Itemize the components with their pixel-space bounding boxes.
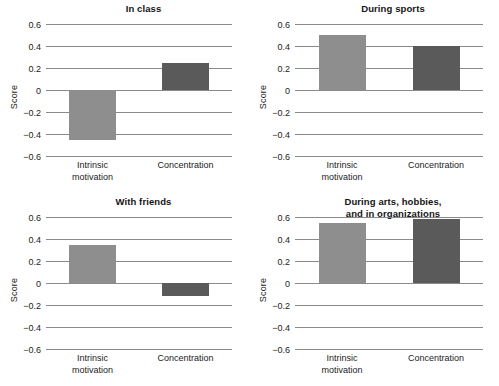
gridline: −0.6: [46, 349, 232, 350]
y-tick-label: 0.2: [28, 257, 41, 267]
bar-concentration: [162, 283, 209, 296]
bars-group: [46, 24, 232, 156]
panel-title: In class: [46, 3, 241, 15]
bar-concentration: [162, 63, 209, 91]
y-tick-label: 0.4: [277, 42, 290, 52]
x-tick-label: Intrinsic motivation: [295, 160, 389, 190]
gridline: −0.6: [295, 156, 483, 157]
bars-group: [46, 217, 232, 349]
plot-area: 0.60.40.20−0.2−0.4−0.6: [46, 217, 232, 349]
y-tick-label: 0.4: [28, 235, 41, 245]
plot-area: 0.60.40.20−0.2−0.4−0.6: [295, 24, 483, 156]
plot-area: 0.60.40.20−0.2−0.4−0.6: [295, 217, 483, 349]
y-tick-label: 0.2: [277, 64, 290, 74]
y-tick-label: 0.2: [277, 257, 290, 267]
y-tick-label: 0.2: [28, 64, 41, 74]
x-tick-label: Concentration: [389, 160, 483, 190]
y-tick-label: −0.2: [23, 108, 41, 118]
y-axis-label: Score: [9, 84, 19, 109]
y-tick-label: 0.6: [28, 20, 41, 30]
gridline: −0.6: [295, 349, 483, 350]
x-axis-labels: Intrinsic motivationConcentration: [46, 353, 232, 383]
panel-title: With friends: [46, 196, 241, 208]
multi-panel-bar-chart: In classScore0.60.40.20−0.2−0.4−0.6Intri…: [0, 0, 499, 386]
x-tick-label: Intrinsic motivation: [46, 353, 139, 383]
x-tick-label: Concentration: [139, 160, 232, 190]
y-tick-label: 0.4: [28, 42, 41, 52]
bar-intrinsic-motivation: [69, 245, 116, 284]
y-tick-label: 0.6: [28, 213, 41, 223]
y-tick-label: −0.6: [272, 152, 290, 162]
bars-group: [295, 24, 483, 156]
y-tick-label: −0.4: [23, 130, 41, 140]
y-tick-label: −0.6: [23, 152, 41, 162]
panel-4: During arts, hobbies, and in organizatio…: [249, 193, 499, 386]
y-tick-label: −0.4: [272, 323, 290, 333]
y-tick-label: 0.6: [277, 20, 290, 30]
y-axis-label: Score: [9, 277, 19, 302]
bars-group: [295, 217, 483, 349]
x-axis-labels: Intrinsic motivationConcentration: [46, 160, 232, 190]
bar-concentration: [413, 46, 460, 90]
y-tick-label: 0: [285, 86, 290, 96]
y-tick-label: 0.6: [277, 213, 290, 223]
y-tick-label: −0.2: [272, 301, 290, 311]
y-tick-label: −0.2: [23, 301, 41, 311]
y-tick-label: 0: [36, 86, 41, 96]
y-axis-label: Score: [258, 84, 268, 109]
bar-intrinsic-motivation: [319, 223, 366, 284]
x-axis-labels: Intrinsic motivationConcentration: [295, 160, 483, 190]
x-axis-labels: Intrinsic motivationConcentration: [295, 353, 483, 383]
panel-title: During arts, hobbies, and in organizatio…: [295, 196, 491, 219]
plot-area: 0.60.40.20−0.2−0.4−0.6: [46, 24, 232, 156]
y-tick-label: −0.6: [23, 345, 41, 355]
y-axis-label: Score: [258, 277, 268, 302]
x-tick-label: Concentration: [139, 353, 232, 383]
panel-2: During sportsScore0.60.40.20−0.2−0.4−0.6…: [249, 0, 499, 193]
gridline: −0.6: [46, 156, 232, 157]
y-tick-label: 0: [285, 279, 290, 289]
x-tick-label: Intrinsic motivation: [295, 353, 389, 383]
y-tick-label: −0.4: [23, 323, 41, 333]
y-tick-label: −0.2: [272, 108, 290, 118]
y-tick-label: −0.4: [272, 130, 290, 140]
panel-title: During sports: [295, 3, 491, 15]
y-tick-label: 0: [36, 279, 41, 289]
y-tick-label: 0.4: [277, 235, 290, 245]
panel-1: In classScore0.60.40.20−0.2−0.4−0.6Intri…: [0, 0, 249, 193]
panel-3: With friendsScore0.60.40.20−0.2−0.4−0.6I…: [0, 193, 249, 386]
x-tick-label: Concentration: [389, 353, 483, 383]
x-tick-label: Intrinsic motivation: [46, 160, 139, 190]
bar-intrinsic-motivation: [319, 35, 366, 90]
bar-intrinsic-motivation: [69, 90, 116, 140]
bar-concentration: [413, 219, 460, 283]
y-tick-label: −0.6: [272, 345, 290, 355]
